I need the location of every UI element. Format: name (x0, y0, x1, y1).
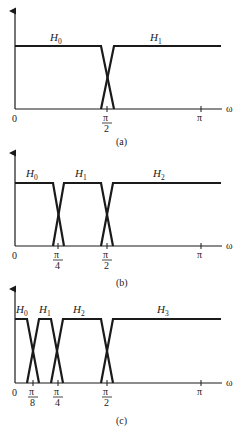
omega-label: ω (226, 103, 233, 114)
origin-label: 0 (12, 250, 17, 261)
tick-label-pi: π (197, 386, 202, 397)
filter-label: H0 (25, 167, 38, 182)
response-h3 (101, 319, 221, 383)
response-h0 (15, 183, 64, 246)
tick-label-den: 4 (55, 260, 60, 271)
origin-label: 0 (12, 113, 17, 124)
filter-label: H0 (15, 303, 28, 318)
tick-label-num: π (103, 386, 108, 397)
response-h1 (101, 46, 221, 109)
panel-caption: (c) (116, 415, 127, 427)
panel-b: H0 H1 H2 0 ω π 4 π 2 π (b) (12, 153, 233, 289)
filter-label: H3 (156, 303, 169, 318)
filter-label: H0 (49, 31, 62, 46)
tick-label-num: π (54, 386, 59, 397)
tick-label-num: π (54, 249, 59, 260)
filter-label: H1 (149, 31, 162, 46)
panel-caption: (b) (116, 277, 128, 289)
tick-label-den: 2 (104, 260, 109, 271)
tick-label-den: 2 (104, 123, 109, 134)
filter-label: H2 (72, 303, 85, 318)
panel-c: H0 H1 H2 H3 0 ω π 8 π 4 π 2 π (c) (12, 289, 233, 427)
response-h0 (15, 319, 39, 383)
panel-a: H0 H1 0 ω π 2 π (a) (12, 11, 233, 148)
filter-bank-diagram: H0 H1 0 ω π 2 π (a) H0 H1 H2 0 ω π 4 π 2… (0, 0, 246, 438)
origin-label: 0 (12, 387, 17, 398)
tick-label-den: 8 (30, 397, 35, 408)
response-h0 (15, 46, 114, 109)
omega-label: ω (226, 240, 233, 251)
filter-label: H1 (74, 167, 87, 182)
tick-label-pi: π (197, 112, 202, 123)
omega-label: ω (226, 377, 233, 388)
tick-label-num: π (103, 249, 108, 260)
tick-label-num: π (103, 112, 108, 123)
filter-label: H1 (38, 303, 51, 318)
tick-label-num: π (29, 386, 34, 397)
tick-label-den: 4 (55, 397, 60, 408)
filter-label: H2 (152, 167, 165, 182)
tick-label-pi: π (197, 249, 202, 260)
response-h2 (101, 183, 221, 246)
tick-label-den: 2 (104, 397, 109, 408)
panel-caption: (a) (116, 136, 127, 148)
